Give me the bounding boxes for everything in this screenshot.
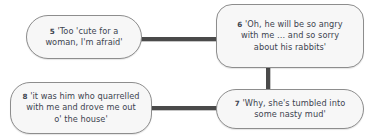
node-7-id: 7	[235, 99, 240, 108]
node-6-text: 'Oh, he will be so angry with me … and s…	[241, 19, 343, 51]
node-5-text: 'Too 'cute for a woman, I'm afraid'	[45, 26, 122, 47]
diagram-node-5[interactable]: 5 'Too 'cute for a woman, I'm afraid'	[26, 15, 142, 59]
edge-node5-node6	[140, 37, 218, 41]
edge-node8-node7	[152, 106, 218, 110]
diagram-node-8[interactable]: 8 'it was him who quarrelled with me and…	[10, 82, 152, 134]
edge-node6-node7	[266, 68, 270, 90]
node-5-content: 5 'Too 'cute for a woman, I'm afraid'	[40, 26, 127, 48]
node-7-content: 7 'Why, she's tumbled into some nasty mu…	[230, 98, 350, 120]
node-8-content: 8 'it was him who quarrelled with me and…	[17, 91, 144, 125]
node-8-id: 8	[22, 92, 27, 101]
diagram-node-7[interactable]: 7 'Why, she's tumbled into some nasty mu…	[216, 89, 364, 129]
node-5-id: 5	[50, 27, 55, 36]
diagram-node-6[interactable]: 6 'Oh, he will be so angry with me … and…	[216, 4, 364, 68]
node-8-text: 'it was him who quarrelled with me and d…	[26, 91, 139, 123]
node-6-content: 6 'Oh, he will be so angry with me … and…	[232, 19, 347, 53]
diagram-canvas: 5 'Too 'cute for a woman, I'm afraid' 6 …	[0, 0, 369, 136]
node-6-id: 6	[237, 20, 242, 29]
node-7-text: 'Why, she's tumbled into some nasty mud'	[242, 98, 345, 119]
